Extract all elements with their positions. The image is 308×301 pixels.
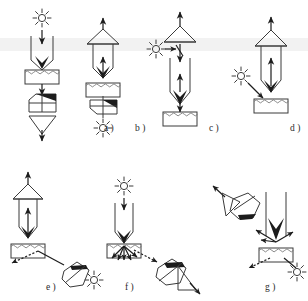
panel-b: b ): [86, 18, 145, 137]
sample-rough-surface-icon: [11, 244, 45, 258]
sun-icon: [33, 9, 51, 27]
sun-icon: [115, 177, 133, 195]
panel-c: c ): [147, 12, 219, 134]
prism-dispersing-element-icon: [29, 94, 56, 112]
sample-rough-surface-icon: [86, 83, 120, 97]
prism-dispersing-element-icon: [230, 193, 260, 220]
beam-direction-arrow-icon: [190, 283, 200, 294]
beam-focus-arrow-icon: [35, 56, 49, 69]
panel-label-d: d ): [290, 123, 300, 134]
prism-dispersing-element-icon: [156, 259, 186, 285]
panel-label-b: b ): [135, 123, 145, 134]
panel-g: g ): [213, 186, 306, 293]
beam-direction-arrow-icon: [213, 186, 225, 197]
sun-icon: [232, 67, 250, 85]
sample-rough-surface-icon: [254, 99, 288, 113]
sample-rough-surface-icon: [163, 112, 197, 126]
beam-direction-arrow-icon: [248, 83, 263, 98]
panel-f: f ): [107, 177, 200, 294]
sun-icon: [85, 271, 103, 289]
panel-label-e: e ): [46, 282, 56, 293]
figure-canvas: a ) b ): [0, 0, 308, 301]
sample-rough-surface-icon: [259, 248, 293, 262]
background-band: [0, 38, 308, 51]
scattered-beam-line: [134, 250, 157, 262]
beam-focus-arrow-icon: [268, 218, 284, 240]
lens-cone-icon: [13, 184, 43, 199]
panel-label-f: f ): [125, 282, 134, 293]
panel-d: d ): [232, 17, 300, 134]
scattered-beam-line: [12, 251, 38, 263]
sun-icon: [288, 263, 306, 281]
panel-label-c: c ): [209, 123, 219, 134]
prism-dispersing-element-icon: [90, 96, 117, 118]
panel-label-g: g ): [265, 282, 275, 293]
incident-beam-line: [284, 258, 296, 268]
sun-icon: [94, 119, 112, 137]
sample-rough-surface-icon: [25, 70, 59, 84]
panel-e: e ): [11, 172, 103, 293]
prism-dispersing-element-icon: [62, 262, 89, 287]
